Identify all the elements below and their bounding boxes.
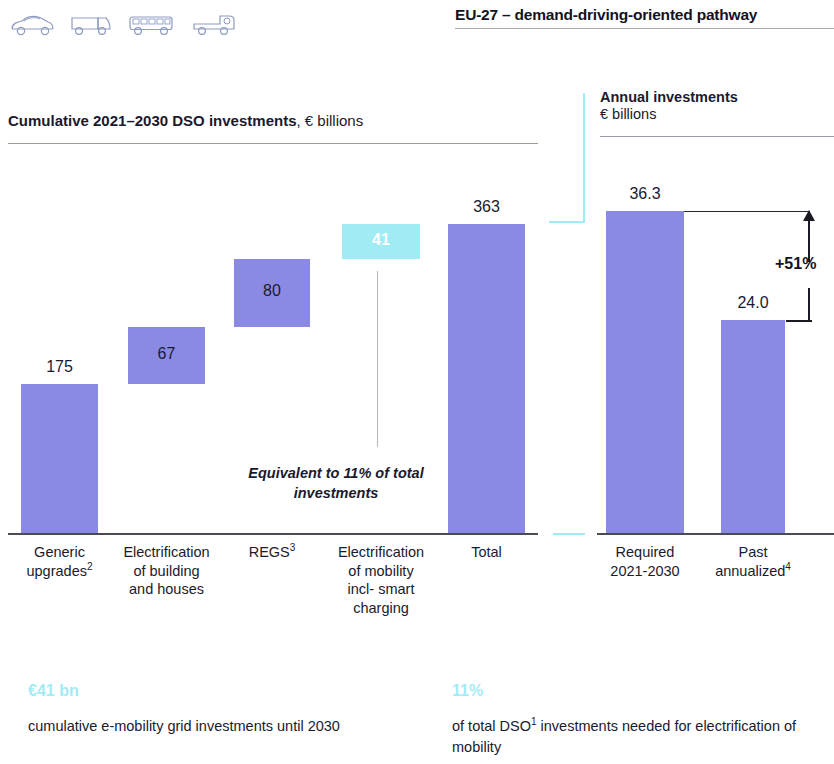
key-fact-emobility-text: cumulative e-mobility grid investments u… xyxy=(28,716,408,737)
bar-4 xyxy=(448,224,525,533)
page-title: EU-27 – demand-driving-oriented pathway xyxy=(455,6,834,24)
category-label-0-footnote-marker: 2 xyxy=(87,561,93,572)
bar-value-1: 67 xyxy=(107,345,227,363)
equivalence-note: Equivalent to 11% of total investments xyxy=(232,463,440,503)
right-panel-underline xyxy=(600,136,834,137)
annual-bar-value-1: 24.0 xyxy=(693,294,813,312)
delta-arrow-icon xyxy=(803,210,815,221)
right-panel-title-bold: Annual investments xyxy=(600,89,830,106)
key-fact-emobility: €41 bn cumulative e-mobility grid invest… xyxy=(28,682,408,737)
key-fact-share: 11% of total DSO1 investments needed for… xyxy=(452,682,822,758)
right-panel-title-unit: € billions xyxy=(600,106,656,122)
page-title-underline xyxy=(455,28,834,29)
van-icon xyxy=(68,12,114,38)
car-icon xyxy=(8,12,56,38)
bus-icon xyxy=(126,12,178,38)
bar-value-2: 80 xyxy=(212,282,332,300)
bar-3 xyxy=(342,224,420,259)
panel-link-bracket xyxy=(549,93,585,223)
mobility-callout-stem xyxy=(377,271,378,447)
bar-2 xyxy=(234,259,310,327)
key-fact-emobility-figure: €41 bn xyxy=(28,682,408,700)
left-panel-title: Cumulative 2021–2030 DSO investments, € … xyxy=(8,112,363,129)
right-panel-title: Annual investments€ billions xyxy=(600,89,830,123)
key-fact-share-text-lead: of total DSO xyxy=(452,718,531,734)
left-panel-baseline xyxy=(8,533,538,535)
annual-bar-1 xyxy=(721,320,785,533)
key-fact-share-text: of total DSO1 investments needed for ele… xyxy=(452,716,822,758)
annual-category-label-1: Pastannualized4 xyxy=(678,543,828,580)
category-label-2-footnote-marker: 3 xyxy=(290,542,296,553)
delta-lower-shaft xyxy=(808,288,810,321)
annual-category-label-0: Required2021-2030 xyxy=(570,543,720,580)
left-panel-title-bold: Cumulative 2021–2030 DSO investments xyxy=(8,112,296,129)
category-label-3: Electrificationof mobilityincl- smartcha… xyxy=(306,543,456,617)
left-panel-underline xyxy=(8,143,538,144)
left-panel-title-unit: , € billions xyxy=(296,112,363,129)
category-label-1: Electrificationof buildingand houses xyxy=(92,543,242,599)
annual-bar-0 xyxy=(606,211,684,533)
category-label-2: REGS3 xyxy=(197,543,347,562)
vehicle-icon-strip xyxy=(8,8,228,42)
delta-arrow-shaft xyxy=(808,212,810,262)
key-fact-emobility-text-main: cumulative e-mobility grid investments u… xyxy=(28,718,340,734)
right-panel-baseline xyxy=(597,533,834,535)
bar-1 xyxy=(128,327,205,384)
bar-value-3: 41 xyxy=(321,231,441,249)
truck-icon xyxy=(190,12,240,38)
delta-bottom-guide xyxy=(786,320,812,322)
delta-top-guide xyxy=(684,211,810,212)
category-label-0: Genericupgrades2 xyxy=(0,543,135,580)
key-fact-share-figure: 11% xyxy=(452,682,822,700)
annual-bar-value-0: 36.3 xyxy=(585,185,705,203)
delta-label: +51% xyxy=(775,255,834,273)
bar-value-4: 363 xyxy=(427,198,547,216)
annual-category-label-1-footnote-marker: 4 xyxy=(785,561,791,572)
bar-value-0: 175 xyxy=(0,358,120,376)
panel-gap-connector xyxy=(553,533,585,535)
bar-0 xyxy=(21,384,98,533)
category-label-4: Total xyxy=(412,543,562,562)
